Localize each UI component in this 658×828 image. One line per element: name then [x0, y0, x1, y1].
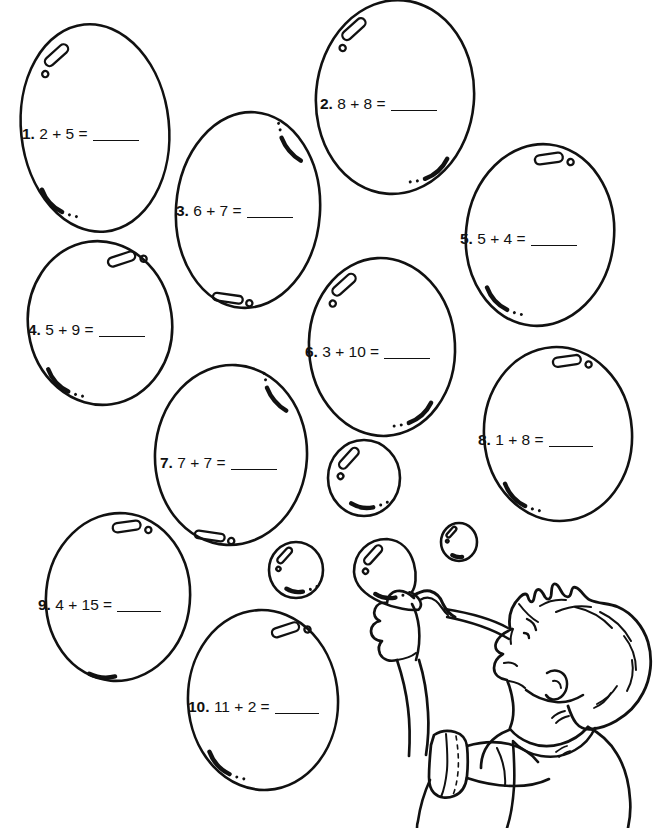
upper-arm: [481, 730, 509, 768]
sleeve-cuff-line-2: [452, 736, 458, 797]
problem-number: 1.: [22, 125, 35, 142]
nose-bridge: [511, 629, 513, 644]
hair-strand-3: [575, 607, 612, 628]
problem-number: 3.: [176, 202, 189, 219]
answer-blank[interactable]: [391, 110, 437, 111]
problem-expression: 11 + 2 =: [214, 698, 270, 715]
problem-expression: 1 + 8 =: [495, 431, 543, 448]
rolled-sleeve: [429, 731, 468, 798]
problem-expression: 2 + 5 =: [39, 125, 87, 142]
forearm-back: [419, 660, 428, 755]
eye: [524, 633, 529, 638]
answer-blank[interactable]: [247, 217, 293, 218]
answer-blank[interactable]: [93, 140, 139, 141]
problem-number: 5.: [460, 230, 473, 247]
problem-expression: 3 + 10 =: [322, 343, 379, 360]
problem-9[interactable]: 9. 4 + 15 =: [38, 597, 161, 613]
chin-line: [509, 681, 525, 688]
problem-expression: 6 + 7 =: [193, 202, 241, 219]
problem-number: 8.: [478, 431, 491, 448]
neck-shading-1: [552, 711, 565, 718]
problem-expression: 8 + 8 =: [337, 95, 385, 112]
answer-blank[interactable]: [275, 713, 319, 714]
answer-blank[interactable]: [231, 469, 277, 470]
problem-10[interactable]: 10. 11 + 2 =: [188, 699, 319, 715]
neck-shading-2: [556, 716, 569, 723]
answer-blank[interactable]: [117, 611, 161, 612]
shirt-side: [417, 780, 430, 828]
fist-finger-line: [397, 653, 416, 660]
problem-6[interactable]: 6. 3 + 10 =: [305, 344, 430, 360]
problem-number: 6.: [305, 343, 318, 360]
ear: [546, 671, 567, 700]
collar: [510, 727, 588, 746]
boy-blowing-bubbles-illustration: [371, 584, 651, 828]
problem-number: 9.: [38, 596, 51, 613]
fist-thumb: [412, 604, 419, 660]
ear-inner: [553, 681, 561, 688]
problem-8[interactable]: 8. 1 + 8 =: [478, 432, 593, 448]
problem-expression: 5 + 4 =: [477, 230, 525, 247]
hair-strand-7: [597, 686, 617, 704]
problem-number: 4.: [28, 321, 41, 338]
problem-5[interactable]: 5. 5 + 4 =: [460, 231, 577, 247]
worksheet-artwork: [0, 0, 658, 828]
answer-blank[interactable]: [99, 336, 145, 337]
collar-notch-1: [556, 746, 567, 752]
small-bubble-center: [328, 440, 400, 516]
problem-expression: 7 + 7 =: [177, 454, 225, 471]
problem-number: 2.: [320, 95, 333, 112]
shirt-body: [588, 727, 630, 828]
answer-blank[interactable]: [384, 358, 430, 359]
sleeve-arm-bottom: [467, 778, 549, 786]
problem-expression: 4 + 15 =: [55, 596, 112, 613]
problem-expression: 5 + 9 =: [45, 321, 93, 338]
sleeve-cuff-line-1: [441, 734, 447, 797]
hair-strand-6: [627, 660, 633, 691]
answer-blank[interactable]: [531, 245, 577, 246]
hair-strand-4: [600, 612, 631, 641]
answer-blank[interactable]: [549, 446, 593, 447]
problem-4[interactable]: 4. 5 + 9 =: [28, 322, 145, 338]
bubbles-group: [11, 0, 638, 794]
problem-1[interactable]: 1. 2 + 5 =: [22, 126, 139, 142]
bubble-shading: [452, 555, 462, 558]
small-bubble-left: [269, 542, 323, 598]
problem-number: 7.: [160, 454, 173, 471]
small-bubble-right: [441, 523, 477, 561]
fist-hand: [371, 591, 414, 756]
worksheet-page: 1. 2 + 5 =2. 8 + 8 =3. 6 + 7 =4. 5 + 9 =…: [0, 0, 658, 828]
mouth: [504, 663, 517, 666]
problem-3[interactable]: 3. 6 + 7 =: [176, 203, 293, 219]
problem-number: 10.: [188, 698, 210, 715]
hair-strand-1: [540, 600, 566, 606]
problem-2[interactable]: 2. 8 + 8 =: [320, 96, 437, 112]
problem-7[interactable]: 7. 7 + 7 =: [160, 455, 277, 471]
sleeve-shoulder-seam: [497, 748, 505, 786]
